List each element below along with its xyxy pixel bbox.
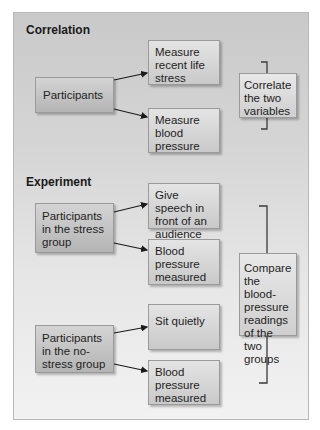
- correlation-title: Correlation: [26, 23, 90, 37]
- measure-stress-box: Measure recent life stress: [148, 40, 220, 85]
- correlate-box: Correlate the two variables: [239, 73, 297, 118]
- measure-bp-label: Measure blood pressure: [155, 114, 200, 152]
- no-stress-group-box: Participants in the no-stress group: [35, 325, 114, 373]
- participants-label: Participants: [43, 89, 103, 102]
- stress-bp-box: Blood pressure measured: [148, 239, 220, 285]
- give-speech-box: Give speech in front of an audience: [148, 183, 220, 229]
- experiment-title: Experiment: [26, 175, 91, 189]
- participants-box: Participants: [35, 77, 114, 113]
- stress-group-label: Participants in the stress group: [42, 210, 104, 248]
- sit-quietly-box: Sit quietly: [148, 304, 220, 350]
- compare-box: Compare the blood-pressure readings of t…: [239, 253, 297, 336]
- sit-quietly-label: Sit quietly: [155, 315, 205, 327]
- no-stress-group-label: Participants in the no-stress group: [42, 332, 105, 370]
- no-stress-bp-label: Blood pressure measured: [155, 366, 206, 404]
- give-speech-label: Give speech in front of an audience: [155, 189, 207, 240]
- stress-group-box: Participants in the stress group: [35, 203, 114, 253]
- stress-bp-label: Blood pressure measured: [155, 245, 206, 283]
- no-stress-bp-box: Blood pressure measured: [148, 360, 220, 405]
- measure-stress-label: Measure recent life stress: [155, 46, 205, 84]
- correlate-label: Correlate the two variables: [244, 79, 291, 117]
- measure-bp-box: Measure blood pressure: [148, 108, 220, 153]
